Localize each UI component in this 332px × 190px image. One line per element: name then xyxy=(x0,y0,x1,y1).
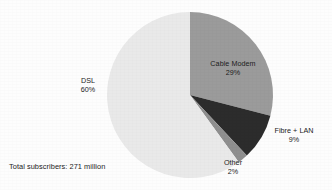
pie-label-fibre-lan-percent: 9% xyxy=(262,135,326,144)
pie-label-fibre-lan-name: Fibre + LAN xyxy=(274,126,313,135)
pie-label-dsl: DSL 60% xyxy=(58,76,118,95)
pie-label-dsl-percent: 60% xyxy=(58,85,118,94)
total-subscribers-caption: Total subscribers: 271 million xyxy=(9,162,105,171)
pie-slices xyxy=(107,12,273,178)
pie-chart-figure: Cable Modem 29% DSL 60% Fibre + LAN 9% O… xyxy=(0,0,332,190)
pie-label-other-percent: 2% xyxy=(213,167,253,176)
pie-label-other: Other 2% xyxy=(213,158,253,177)
pie-label-dsl-name: DSL xyxy=(81,76,95,85)
pie-label-cable-modem: Cable Modem 29% xyxy=(196,59,270,78)
pie-label-other-name: Other xyxy=(224,158,242,167)
pie-label-cable-modem-percent: 29% xyxy=(196,68,270,77)
pie-label-cable-modem-name: Cable Modem xyxy=(210,59,255,68)
pie-label-fibre-lan: Fibre + LAN 9% xyxy=(262,126,326,145)
